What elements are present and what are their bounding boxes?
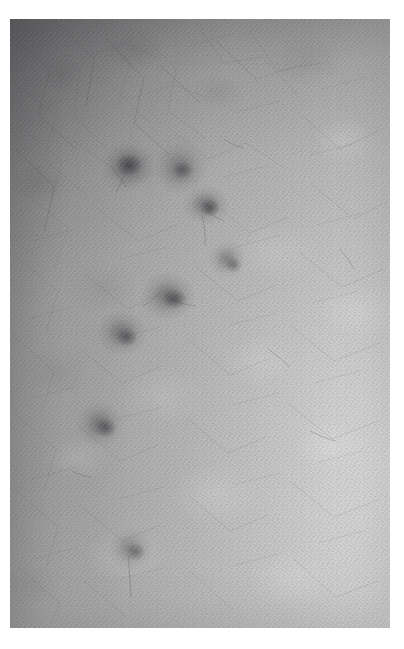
photo-vignette (10, 19, 390, 628)
page-root (0, 0, 404, 649)
skin-lesion-photograph (10, 19, 390, 628)
